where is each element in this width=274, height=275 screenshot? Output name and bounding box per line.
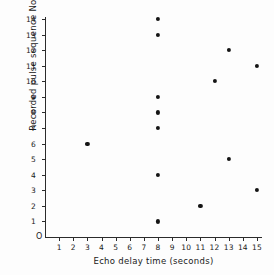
x-axis-title: Echo delay time (seconds) [45, 256, 262, 266]
x-tick-mark [130, 237, 131, 241]
origin-label: O [36, 232, 42, 241]
y-tick-mark [42, 206, 46, 207]
x-tick-label: 11 [195, 243, 205, 252]
data-point [255, 188, 259, 192]
x-tick-mark [257, 237, 258, 241]
x-tick-label: 10 [181, 243, 191, 252]
x-tick-label: 2 [71, 243, 76, 252]
y-tick-mark [42, 128, 46, 129]
data-point [213, 79, 217, 83]
x-tick-mark [59, 237, 60, 241]
y-tick-mark [42, 175, 46, 176]
data-point [156, 219, 160, 223]
x-tick-label: 5 [113, 243, 118, 252]
x-tick-mark [243, 237, 244, 241]
y-tick-mark [42, 190, 46, 191]
data-point [156, 17, 160, 21]
x-tick-mark [87, 237, 88, 241]
y-tick-mark [42, 144, 46, 145]
data-point [156, 173, 160, 177]
data-point [156, 32, 160, 36]
data-point [255, 64, 259, 68]
data-point [156, 110, 160, 114]
y-tick-label: 2 [31, 201, 36, 210]
scatter-chart-figure: 123456789101112131415 123456789101112131… [0, 0, 274, 275]
x-tick-mark [200, 237, 201, 241]
data-point [156, 95, 160, 99]
x-tick-label: 6 [127, 243, 132, 252]
x-tick-label: 14 [238, 243, 248, 252]
x-tick-mark [116, 237, 117, 241]
y-tick-label: 3 [31, 186, 36, 195]
y-axis-title: Recorded pulse sequence No [28, 0, 38, 150]
x-tick-mark [158, 237, 159, 241]
data-point [198, 204, 202, 208]
x-tick-label: 7 [141, 243, 146, 252]
x-tick-label: 4 [99, 243, 104, 252]
x-tick-mark [172, 237, 173, 241]
x-tick-mark [186, 237, 187, 241]
x-tick-label: 15 [252, 243, 262, 252]
data-point [227, 48, 231, 52]
y-tick-mark [42, 97, 46, 98]
y-tick-mark [42, 159, 46, 160]
data-point [156, 126, 160, 130]
data-point [227, 157, 231, 161]
y-tick-mark [42, 81, 46, 82]
x-tick-mark [215, 237, 216, 241]
x-tick-label: 12 [210, 243, 220, 252]
x-tick-label: 8 [156, 243, 161, 252]
y-tick-mark [42, 19, 46, 20]
x-tick-mark [229, 237, 230, 241]
y-tick-label: 1 [31, 217, 36, 226]
x-tick-label: 1 [57, 243, 62, 252]
y-tick-label: 5 [31, 155, 36, 164]
y-tick-mark [42, 35, 46, 36]
data-point [85, 141, 89, 145]
x-tick-mark [102, 237, 103, 241]
y-tick-label: 4 [31, 170, 36, 179]
x-tick-label: 3 [85, 243, 90, 252]
y-tick-mark [42, 66, 46, 67]
x-tick-mark [73, 237, 74, 241]
y-tick-mark [42, 221, 46, 222]
x-tick-mark [144, 237, 145, 241]
x-tick-label: 13 [224, 243, 234, 252]
y-tick-mark [42, 112, 46, 113]
y-tick-mark [42, 50, 46, 51]
x-tick-label: 9 [170, 243, 175, 252]
